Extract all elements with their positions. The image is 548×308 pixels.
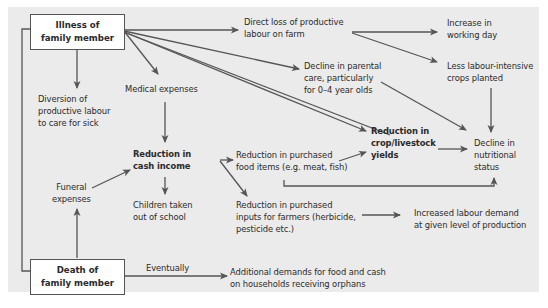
node-funeral-line1: Funeral xyxy=(52,181,91,193)
node-death-line2: family member xyxy=(31,277,124,290)
node-labour-demand-line2: at given level of production xyxy=(414,219,526,231)
node-nutritional-status: Decline in nutritional status xyxy=(474,137,516,173)
node-inputs-line1: Reduction in purchased xyxy=(236,199,356,211)
node-parental-line3: for 0–4 year olds xyxy=(304,84,381,96)
node-nutrition-line1: Decline in xyxy=(474,137,516,149)
node-food-items-line2: food items (e.g. meat, fish) xyxy=(236,161,347,173)
node-nutrition-line2: nutritional xyxy=(474,149,516,161)
node-illness-line2: family member xyxy=(31,32,124,45)
node-labour-demand: Increased labour demand at given level o… xyxy=(414,207,526,231)
node-illness: Illness of family member xyxy=(30,14,125,50)
node-school-line1: Children taken xyxy=(133,199,193,211)
node-increase-day: Increase in working day xyxy=(447,17,497,41)
node-parental-care: Decline in parental care, particularly f… xyxy=(304,60,381,96)
node-less-labour-line1: Less labour-intensive xyxy=(447,60,533,72)
node-medical: Medical expenses xyxy=(125,83,198,95)
node-nutrition-line3: status xyxy=(474,161,516,173)
node-crop-yields-line1: Reduction in xyxy=(371,125,436,137)
node-diversion-line3: to care for sick xyxy=(38,117,110,129)
edge-label-eventually-text: Eventually xyxy=(146,262,189,274)
node-less-labour: Less labour-intensive crops planted xyxy=(447,60,533,84)
node-illness-line1: Illness of xyxy=(31,19,124,32)
node-death-line1: Death of xyxy=(31,264,124,277)
node-diversion: Diversion of productive labour to care f… xyxy=(38,93,110,129)
node-medical-line1: Medical expenses xyxy=(125,83,198,95)
node-cash-income-line1: Reduction in xyxy=(133,148,191,160)
node-increase-day-line1: Increase in xyxy=(447,17,497,29)
node-direct-loss-line2: labour on farm xyxy=(244,28,343,40)
node-inputs-line3: pesticide etc.) xyxy=(236,223,356,235)
node-increase-day-line2: working day xyxy=(447,29,497,41)
node-school: Children taken out of school xyxy=(133,199,193,223)
node-diversion-line1: Diversion of xyxy=(38,93,110,105)
node-funeral-line2: expenses xyxy=(52,193,91,205)
node-food-items-line1: Reduction in purchased xyxy=(236,149,347,161)
node-inputs-line2: inputs for farmers (herbicide, xyxy=(236,211,356,223)
node-diversion-line2: productive labour xyxy=(38,105,110,117)
node-inputs: Reduction in purchased inputs for farmer… xyxy=(236,199,356,235)
node-crop-yields-line2: crop/livestock xyxy=(371,137,436,149)
edge-label-eventually: Eventually xyxy=(146,262,189,274)
node-crop-yields-line3: yields xyxy=(371,149,436,161)
node-crop-yields: Reduction in crop/livestock yields xyxy=(371,125,436,161)
node-orphans: Additional demands for food and cash on … xyxy=(230,266,386,290)
node-food-items: Reduction in purchased food items (e.g. … xyxy=(236,149,347,173)
node-death: Death of family member xyxy=(30,259,125,295)
node-direct-loss-line1: Direct loss of productive xyxy=(244,16,343,28)
node-parental-line1: Decline in parental xyxy=(304,60,381,72)
node-school-line2: out of school xyxy=(133,211,193,223)
node-less-labour-line2: crops planted xyxy=(447,72,533,84)
node-labour-demand-line1: Increased labour demand xyxy=(414,207,526,219)
node-cash-income: Reduction in cash income xyxy=(133,148,191,172)
node-funeral: Funeral expenses xyxy=(52,181,91,205)
node-orphans-line1: Additional demands for food and cash xyxy=(230,266,386,278)
node-parental-line2: care, particularly xyxy=(304,72,381,84)
node-cash-income-line2: cash income xyxy=(133,160,191,172)
node-direct-loss: Direct loss of productive labour on farm xyxy=(244,16,343,40)
node-orphans-line2: on households receiving orphans xyxy=(230,278,386,290)
